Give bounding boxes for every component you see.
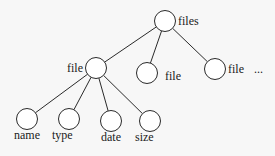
edge-root-file2 — [150, 31, 161, 63]
node-size: size — [135, 111, 161, 145]
label-ellipsis: ... — [254, 62, 263, 76]
node-file-2: file — [137, 63, 182, 84]
edge-root-file1 — [105, 27, 157, 62]
node-circle-date — [101, 111, 122, 132]
edge-file1-name — [35, 74, 87, 113]
node-circle-size — [140, 111, 161, 132]
node-circle-root — [155, 11, 176, 32]
node-circle-type — [59, 109, 80, 130]
label-file-2: file — [165, 69, 181, 83]
node-date: date — [101, 111, 122, 145]
ellipsis-more: ... — [254, 62, 263, 76]
label-file-3: file — [228, 62, 244, 76]
node-type: type — [52, 109, 80, 143]
label-name: name — [14, 128, 40, 142]
node-circle-file-2 — [137, 63, 158, 84]
label-date: date — [101, 130, 121, 144]
node-circle-file-3 — [205, 59, 226, 80]
label-file-1: file — [67, 61, 83, 75]
tree-diagram: files file file file ... name type date … — [0, 0, 275, 156]
node-root: files — [155, 11, 199, 32]
label-type: type — [52, 128, 73, 142]
node-name: name — [14, 109, 40, 143]
edge-root-file3 — [173, 28, 208, 61]
edge-file1-size — [103, 75, 142, 113]
edges — [35, 27, 207, 114]
label-root: files — [178, 14, 199, 28]
label-size: size — [135, 130, 154, 144]
edge-file1-date — [99, 78, 108, 111]
node-circle-file-1 — [86, 58, 107, 79]
node-file-3: file — [205, 59, 245, 80]
node-circle-name — [17, 109, 38, 130]
